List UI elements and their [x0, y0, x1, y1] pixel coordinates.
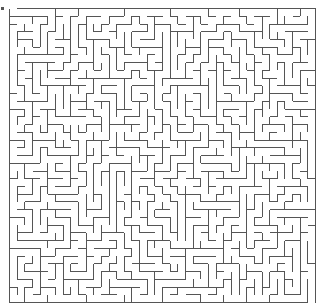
maze-grid[interactable] — [0, 0, 322, 306]
maze-walls — [10, 9, 316, 303]
